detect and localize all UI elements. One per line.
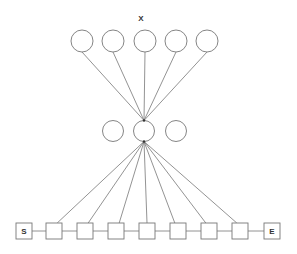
top-node-2: [102, 30, 124, 52]
hub-top-junction: [143, 119, 145, 121]
sequence-box-4: [139, 223, 155, 239]
edge-top-4: [144, 52, 176, 121]
middle-node-3: [166, 121, 187, 142]
sequence-box-7: [232, 223, 248, 239]
edge-top-1: [82, 52, 144, 121]
diagram-title: X: [138, 14, 144, 23]
sequence-box-5: [170, 223, 186, 239]
diagram-canvas: X SE: [0, 0, 297, 254]
edge-seq-3: [119, 142, 144, 224]
sequence-box-1: [46, 223, 62, 239]
edge-seq-7: [144, 142, 237, 224]
end-label: E: [269, 227, 275, 236]
top-node-4: [165, 30, 187, 52]
edge-top-3: [144, 52, 145, 121]
sequence-box-3: [108, 223, 124, 239]
top-node-3: [134, 30, 156, 52]
edge-top-5: [144, 52, 207, 121]
nodes: SE: [16, 30, 280, 239]
edge-seq-6: [144, 142, 206, 224]
edge-seq-2: [88, 142, 144, 224]
edge-seq-5: [144, 142, 175, 224]
edge-seq-1: [57, 142, 144, 224]
top-node-5: [196, 30, 218, 52]
sequence-box-6: [201, 223, 217, 239]
start-label: S: [21, 227, 27, 236]
sequence-box-2: [77, 223, 93, 239]
top-node-1: [71, 30, 93, 52]
middle-node-2: [134, 121, 155, 142]
edge-seq-4: [144, 142, 147, 224]
middle-node-1: [103, 121, 124, 142]
hub-bottom-junction: [143, 140, 145, 142]
network-diagram: X SE: [0, 0, 297, 254]
edge-top-2: [113, 52, 144, 121]
edges: [32, 52, 264, 231]
